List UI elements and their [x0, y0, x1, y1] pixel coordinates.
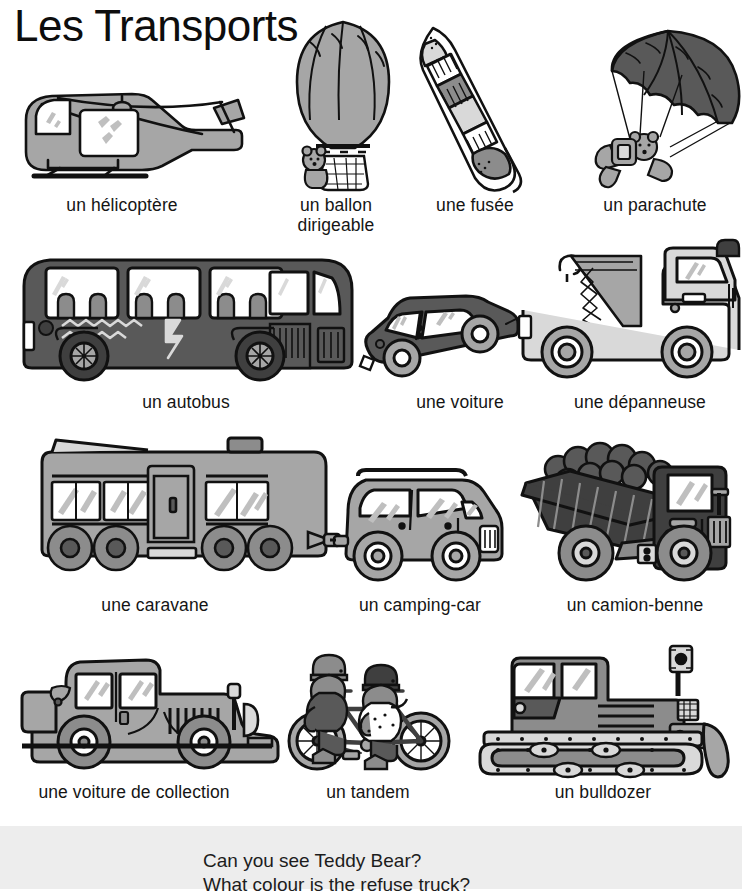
label-dump-truck: un camion-benne: [535, 595, 735, 615]
question-line-1: Can you see Teddy Bear?: [203, 849, 470, 873]
illustration-helicopter: [18, 68, 258, 188]
label-caravan: une caravane: [50, 595, 260, 615]
label-tandem: un tandem: [288, 782, 448, 802]
label-camper-van: un camping-car: [320, 595, 520, 615]
illustration-parachute: [570, 25, 742, 200]
illustration-tandem: [285, 645, 457, 775]
question-block: Can you see Teddy Bear? What colour is t…: [203, 849, 470, 895]
illustration-dump-truck: [512, 445, 732, 585]
illustration-tow-truck: [505, 248, 740, 384]
illustration-bulldozer: [480, 632, 730, 777]
label-vintage-car: une voiture de collection: [4, 782, 264, 802]
label-bulldozer: un bulldozer: [513, 782, 693, 802]
illustration-rocket: [405, 22, 550, 192]
illustration-camper-van: [330, 460, 510, 585]
label-bus: un autobus: [76, 392, 296, 412]
illustration-airship: [288, 18, 398, 193]
page-title: Les Transports: [14, 4, 298, 48]
label-parachute: un parachute: [575, 195, 735, 215]
illustration-vintage-car: [12, 650, 277, 770]
label-rocket: une fusée: [400, 195, 550, 215]
label-tow-truck: une dépanneuse: [545, 392, 735, 412]
question-line-2: What colour is the refuse truck?: [203, 873, 470, 895]
label-car: une voiture: [380, 392, 540, 412]
label-airship: un ballon dirigeable: [248, 195, 424, 235]
illustration-caravan: [18, 436, 340, 588]
label-helicopter: un hélicoptère: [12, 195, 232, 215]
illustration-bus: [18, 246, 358, 381]
